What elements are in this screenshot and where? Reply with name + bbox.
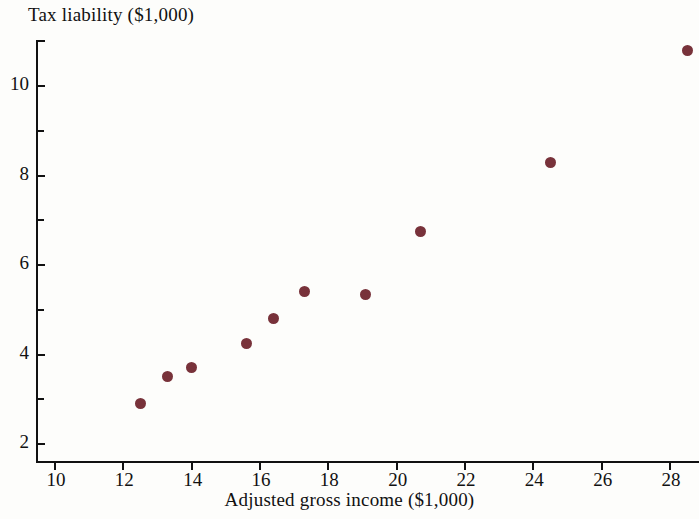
- data-point: [268, 313, 279, 324]
- data-point: [299, 286, 310, 297]
- data-point: [360, 289, 371, 300]
- data-points-layer: [0, 0, 699, 519]
- data-point: [162, 371, 173, 382]
- data-point: [415, 226, 426, 237]
- data-point: [135, 398, 146, 409]
- data-point: [241, 338, 252, 349]
- data-point: [682, 45, 693, 56]
- scatter-chart-figure: Tax liability ($1,000) 246810 1012141618…: [0, 0, 699, 519]
- data-point: [186, 362, 197, 373]
- x-axis-title: Adjusted gross income ($1,000): [0, 489, 699, 511]
- data-point: [545, 157, 556, 168]
